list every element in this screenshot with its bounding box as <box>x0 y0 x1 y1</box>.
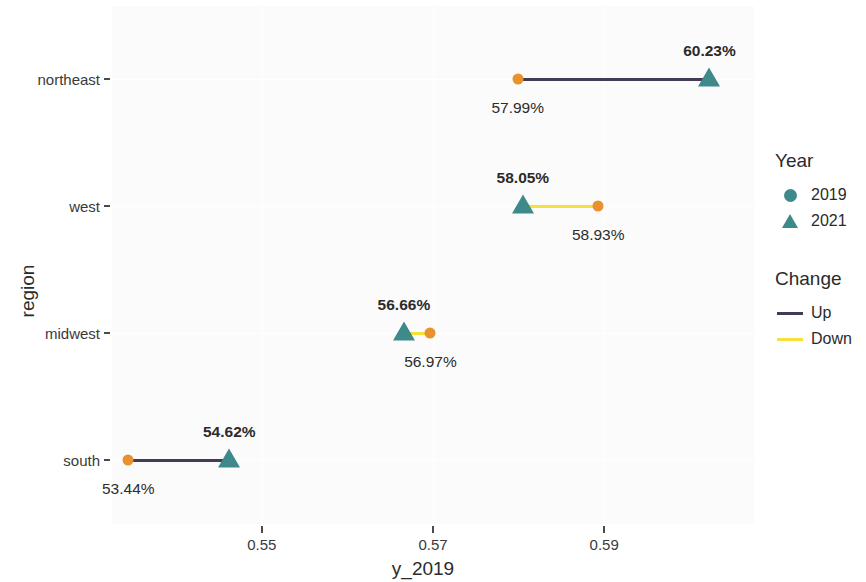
change-segment-northeast <box>518 78 710 81</box>
legend-item-up[interactable]: Up <box>775 300 866 326</box>
y-tick-label-south: south <box>63 452 100 469</box>
value-label-2019-south: 53.44% <box>102 480 155 498</box>
x-tick-label-0-55: 0.55 <box>247 536 276 553</box>
legend-key-down-line <box>775 338 805 341</box>
legend-item-2021[interactable]: 2021 <box>775 208 866 234</box>
marker-2019-midwest[interactable] <box>425 328 436 339</box>
x-tick-mark <box>432 526 434 533</box>
y-tick-label-midwest: midwest <box>45 325 100 342</box>
legend-key-triangle <box>775 214 805 228</box>
legend-label-down: Down <box>811 330 852 348</box>
value-label-2019-northeast: 57.99% <box>491 99 544 117</box>
legend-group-year: Year 2019 2021 <box>775 150 866 234</box>
marker-2021-midwest[interactable] <box>393 322 415 341</box>
value-label-2019-west: 58.93% <box>572 226 625 244</box>
y-tick-label-west: west <box>69 198 100 215</box>
marker-2021-south[interactable] <box>218 449 240 468</box>
x-tick-mark <box>261 526 263 533</box>
x-tick-label-0-59: 0.59 <box>590 536 619 553</box>
gridline-vertical <box>262 6 263 524</box>
marker-2019-south[interactable] <box>123 455 134 466</box>
marker-2019-northeast[interactable] <box>512 74 523 85</box>
marker-2019-west[interactable] <box>593 201 604 212</box>
change-segment-south <box>128 459 229 462</box>
line-up-icon <box>777 312 803 315</box>
y-tick-label-northeast: northeast <box>37 71 100 88</box>
y-tick-mark <box>104 78 110 80</box>
legend-label-up: Up <box>811 304 831 322</box>
gridline-vertical <box>604 6 605 524</box>
x-tick-label-0-57: 0.57 <box>418 536 447 553</box>
x-axis-title: y_2019 <box>0 558 866 580</box>
x-axis-title-text: y_2019 <box>392 558 454 579</box>
y-tick-mark <box>104 459 110 461</box>
change-segment-west <box>523 205 598 208</box>
marker-2021-northeast[interactable] <box>698 68 720 87</box>
circle-marker-icon <box>784 189 797 202</box>
y-tick-mark <box>104 332 110 334</box>
legend-group-change: Change Up Down <box>775 268 866 352</box>
triangle-marker-icon <box>782 214 798 228</box>
value-label-2021-west: 58.05% <box>497 169 550 187</box>
value-label-2021-northeast: 60.23% <box>683 42 736 60</box>
legend-item-down[interactable]: Down <box>775 326 866 352</box>
plot-panel <box>112 6 754 524</box>
legend-title-change: Change <box>775 268 866 290</box>
legend-key-up-line <box>775 312 805 315</box>
gridline-horizontal <box>112 206 754 207</box>
gridline-vertical <box>433 6 434 524</box>
y-axis-title: region <box>17 265 39 318</box>
value-label-2021-south: 54.62% <box>203 423 256 441</box>
y-tick-mark <box>104 205 110 207</box>
legend-item-2019[interactable]: 2019 <box>775 182 866 208</box>
legend-label-2019: 2019 <box>811 186 847 204</box>
line-down-icon <box>777 338 803 341</box>
value-label-2021-midwest: 56.66% <box>378 296 431 314</box>
dumbbell-chart-figure: region y_2019 Year 2019 2021 Change <box>0 0 866 582</box>
legend-title-year: Year <box>775 150 866 172</box>
x-tick-mark <box>603 526 605 533</box>
legend-label-2021: 2021 <box>811 212 847 230</box>
legend-key-circle <box>775 189 805 202</box>
marker-2021-west[interactable] <box>512 195 534 214</box>
value-label-2019-midwest: 56.97% <box>404 353 457 371</box>
legend: Year 2019 2021 Change Up <box>775 150 866 352</box>
